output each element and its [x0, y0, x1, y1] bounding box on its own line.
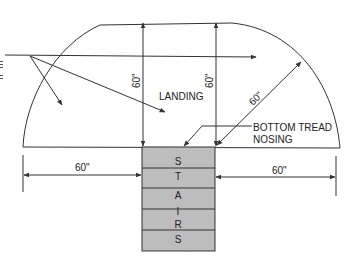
stair-letter: R: [174, 219, 181, 230]
stair-landing-diagram: 60" 60" LANDING 60" BOTTOM TREAD NOSING …: [0, 0, 351, 269]
horizontal-arrow-line: [5, 55, 256, 57]
bottom-tread-nosing-label-line1: BOTTOM TREAD: [253, 122, 332, 133]
vertical-dimension-left-label: 60": [131, 73, 142, 88]
left-edge-marks: [0, 61, 3, 79]
vertical-dimension-right-label: 60": [204, 73, 215, 88]
horizontal-dimension-right-label: 60": [272, 165, 287, 176]
stair-letter: I: [177, 206, 180, 217]
fan-arrow-2: [30, 56, 165, 112]
stairs: S T A I R S: [142, 147, 215, 251]
fan-arrow-1: [30, 56, 62, 105]
stair-letter: S: [175, 234, 182, 245]
horizontal-dimension-left-label: 60": [75, 162, 90, 173]
landing-label: LANDING: [159, 91, 204, 102]
bottom-tread-nosing-leader: [184, 126, 252, 146]
stair-letter: S: [175, 156, 182, 167]
stair-letter: A: [175, 190, 182, 201]
bottom-tread-nosing-label-line2: NOSING: [253, 134, 293, 145]
stair-letter: T: [175, 171, 181, 182]
diagonal-dimension-label: 60": [247, 89, 265, 107]
